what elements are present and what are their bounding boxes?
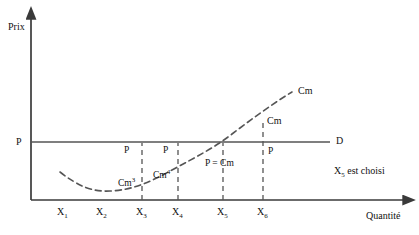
x-tick-x4: X4 [172,207,183,220]
marginal-cost-demand-diagram [0,0,419,235]
x-tick-x2: X2 [96,207,107,220]
chosen-quantity-note: X5 est choisi [334,166,385,179]
x-tick-x6: X6 [257,207,268,220]
annotation-cm4: Cm4 [153,169,170,181]
x-axis-title: Quantité [366,211,400,221]
curve-label-cm-end: Cm [298,86,312,96]
y-axis-title: Prix [8,22,25,32]
x-tick-x3: X3 [136,207,147,220]
demand-line-label: D [336,136,343,146]
annotation-cm3-sup: 3 [132,176,136,184]
x-tick-x1-sub: 1 [64,212,68,220]
x-tick-x4-sub: 4 [179,212,183,220]
annotation-equilibrium: P = Cm [205,159,234,169]
annotation-cm3: Cm3 [118,177,135,189]
annotation-p-x4: P [163,146,168,156]
x-tick-x5-sub: 5 [224,212,228,220]
annotation-p-x3: P [124,146,129,156]
curve-label-cm-x6: Cm [267,116,281,126]
x-tick-x5: X5 [217,207,228,220]
annotation-cm4-sup: 4 [167,168,171,176]
x-tick-x6-sub: 6 [264,212,268,220]
chosen-quantity-suffix: est choisi [345,165,385,176]
x-tick-x2-sub: 2 [103,212,107,220]
annotation-cm4-text: Cm [153,170,167,180]
annotation-cm3-text: Cm [118,178,132,188]
x-tick-x3-sub: 3 [143,212,147,220]
x-tick-x1: X1 [57,207,68,220]
annotation-p-x6: P [268,147,273,157]
price-level-label: P [16,137,22,147]
